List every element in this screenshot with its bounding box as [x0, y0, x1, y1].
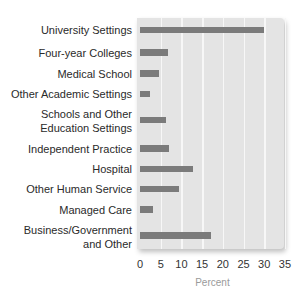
bar: [140, 166, 193, 173]
x-axis-label: Percent: [195, 277, 229, 288]
bar: [140, 49, 168, 56]
gridline: [244, 18, 246, 249]
bar: [140, 232, 211, 239]
category-label: Independent Practice: [28, 143, 132, 155]
category-label: Managed Care: [59, 204, 132, 216]
bar: [140, 145, 169, 152]
x-tick-label: 20: [217, 258, 229, 270]
bar: [140, 117, 166, 124]
category-label: Medical School: [57, 68, 132, 80]
bar: [140, 206, 153, 213]
x-tick-label: 10: [175, 258, 187, 270]
category-label: University Settings: [41, 24, 132, 36]
gridline: [202, 18, 204, 249]
x-tick-label: 35: [279, 258, 291, 270]
x-tick-label: 5: [158, 258, 164, 270]
plot-area: [137, 18, 284, 249]
category-label: Schools and OtherEducation Settings: [40, 107, 132, 135]
x-tick-label: 25: [237, 258, 249, 270]
x-tick-label: 30: [258, 258, 270, 270]
category-label: Other Human Service: [26, 183, 132, 195]
category-label: Hospital: [92, 163, 132, 175]
gridline: [181, 18, 183, 249]
gridline: [285, 18, 287, 249]
category-label: Other Academic Settings: [11, 88, 132, 100]
bar: [140, 91, 150, 98]
gridline: [223, 18, 225, 249]
x-tick-label: 0: [137, 258, 143, 270]
bar: [140, 27, 264, 34]
bar: [140, 70, 159, 77]
category-label: Four-year Colleges: [38, 47, 132, 59]
bar: [140, 186, 179, 193]
category-label: Business/Governmentand Other: [24, 223, 132, 251]
gridline: [264, 18, 266, 249]
x-tick-label: 15: [196, 258, 208, 270]
